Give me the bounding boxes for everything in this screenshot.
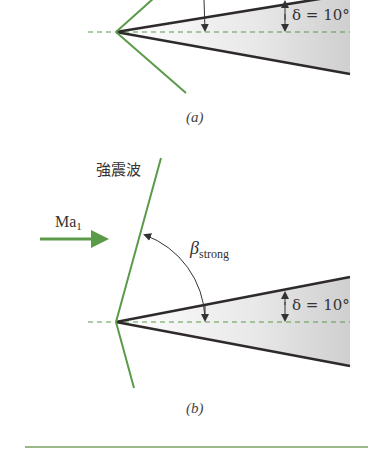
- beta-strong-label: βstrong: [190, 238, 229, 262]
- beta-subscript: strong: [199, 247, 229, 261]
- caption-a: (a): [186, 109, 204, 126]
- strong-shock-b: [116, 158, 161, 322]
- delta-label-b: δ = 10°: [292, 296, 350, 314]
- caption-b: (b): [186, 400, 204, 417]
- strong-shock-label: 強震波: [96, 158, 141, 179]
- mach-label-subscript: 1: [76, 220, 82, 232]
- mach-label: Ma1: [55, 213, 82, 232]
- beta-symbol: β: [190, 238, 199, 258]
- panel-b: [40, 158, 350, 388]
- mach-label-base: Ma: [55, 213, 76, 230]
- delta-label-a: δ = 10°: [292, 6, 350, 24]
- strong-shock-lower-b: [116, 322, 134, 388]
